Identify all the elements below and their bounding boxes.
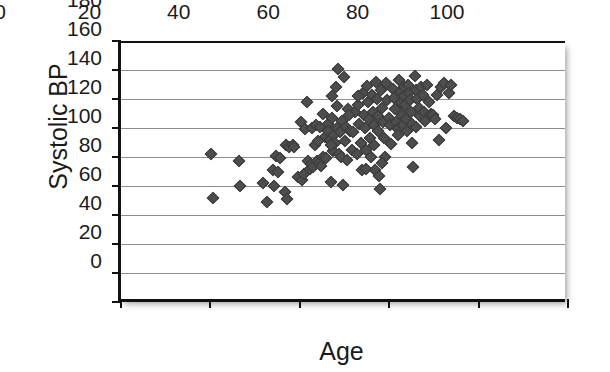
y-tick-label: 140 bbox=[67, 46, 102, 70]
y-axis-tick-labels: 020406080100120140160180 bbox=[0, 0, 110, 261]
x-tick-mark bbox=[478, 299, 480, 308]
data-point bbox=[432, 133, 445, 146]
x-tick-label: 80 bbox=[346, 0, 369, 24]
y-tick-label: 100 bbox=[67, 104, 102, 128]
data-point bbox=[374, 183, 387, 196]
data-point bbox=[205, 148, 218, 161]
y-tick-label: 120 bbox=[67, 75, 102, 99]
data-point bbox=[260, 196, 273, 209]
gridline bbox=[121, 215, 565, 216]
data-point bbox=[234, 180, 247, 193]
gridline bbox=[121, 99, 565, 100]
data-point bbox=[440, 122, 453, 135]
x-tick-mark bbox=[567, 299, 569, 308]
data-point bbox=[406, 136, 419, 149]
y-tick-mark bbox=[112, 214, 121, 216]
y-tick-mark bbox=[112, 156, 121, 158]
plot-area bbox=[118, 41, 565, 302]
x-tick-mark bbox=[299, 299, 301, 308]
data-point bbox=[407, 161, 420, 174]
x-tick-mark bbox=[120, 299, 122, 308]
data-point bbox=[300, 96, 313, 109]
data-point bbox=[336, 178, 349, 191]
y-tick-mark bbox=[112, 272, 121, 274]
gridline bbox=[121, 41, 565, 43]
y-tick-mark bbox=[112, 69, 121, 71]
y-tick-label: 80 bbox=[79, 133, 102, 157]
x-tick-label: 100 bbox=[429, 0, 464, 24]
x-axis-title: Age bbox=[118, 337, 565, 366]
x-tick-mark bbox=[388, 299, 390, 308]
y-tick-label: 20 bbox=[79, 220, 102, 244]
y-tick-mark bbox=[112, 40, 121, 42]
y-tick-mark bbox=[112, 243, 121, 245]
y-tick-label: 0 bbox=[90, 249, 102, 273]
data-point bbox=[207, 191, 220, 204]
x-tick-label: 0 bbox=[0, 0, 6, 24]
x-tick-label: 60 bbox=[257, 0, 280, 24]
y-tick-mark bbox=[112, 98, 121, 100]
data-point bbox=[257, 177, 270, 190]
scatter-chart-figure: Systolic BP 020406080100120140160180 020… bbox=[0, 0, 610, 372]
x-tick-label: 20 bbox=[78, 0, 101, 24]
y-tick-label: 60 bbox=[79, 162, 102, 186]
x-tick-mark bbox=[209, 299, 211, 308]
y-tick-mark bbox=[112, 127, 121, 129]
x-axis-tick-labels: 020406080100 bbox=[0, 0, 447, 30]
gridline bbox=[121, 273, 565, 274]
x-tick-label: 40 bbox=[167, 0, 190, 24]
y-tick-mark bbox=[112, 185, 121, 187]
plot-inner bbox=[121, 41, 565, 299]
y-tick-label: 40 bbox=[79, 191, 102, 215]
gridline bbox=[121, 244, 565, 245]
